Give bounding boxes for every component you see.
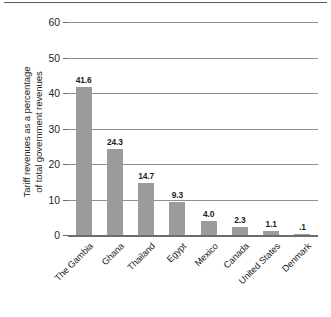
y-axis-label: Tariff revenues as a percentage of total…	[21, 23, 49, 241]
y-axis-tick-label: 60	[48, 17, 60, 28]
x-axis-category-label-text: The Gambia	[53, 241, 95, 283]
y-axis-tick-label: 20	[48, 159, 60, 170]
gridline	[68, 200, 318, 201]
y-axis-tick-label: 40	[48, 88, 60, 99]
bar-value-label: 24.3	[107, 137, 123, 147]
bar-value-label: 9.3	[172, 190, 183, 200]
plot-area: 0102030405060 41.624.314.79.34.02.31.1.1…	[68, 22, 318, 235]
bar-value-label: 14.7	[138, 171, 154, 181]
y-axis-label-line-1: Tariff revenues as a percentage	[21, 66, 33, 197]
x-axis-category-label-text: Mexico	[192, 241, 219, 268]
x-axis-category-label-text: Egypt	[165, 241, 188, 264]
bar[interactable]: 41.6	[76, 87, 92, 235]
x-axis-category-label-text: Canada	[222, 241, 251, 270]
y-axis-tick-label: 30	[48, 123, 60, 134]
bar-value-label: 4.0	[203, 209, 214, 219]
bar-value-label: 41.6	[76, 75, 92, 85]
y-axis-tick-label: 10	[48, 194, 60, 205]
y-axis-tick-label: 0	[54, 230, 60, 241]
gridline	[68, 22, 318, 23]
gridline	[68, 129, 318, 130]
y-axis-spine	[68, 22, 69, 235]
x-axis-category-label-text: Denmark	[281, 241, 314, 274]
x-axis-category-label-text: Thailand	[126, 241, 157, 272]
y-axis-label-line-2: of total government revenues	[33, 71, 45, 192]
gridline	[68, 164, 318, 165]
gridline	[68, 58, 318, 59]
top-rule-divider	[4, 2, 327, 3]
y-axis-tick-label: 50	[48, 52, 60, 63]
gridline	[68, 93, 318, 94]
bar-chart-figure: Tariff revenues as a percentage of total…	[0, 0, 331, 317]
x-axis-category-label-text: Ghana	[100, 241, 126, 267]
